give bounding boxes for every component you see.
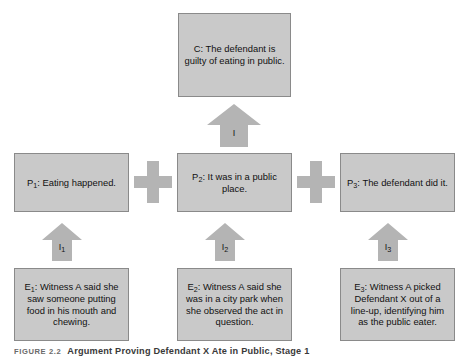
node-premise-p1[interactable]: P1: Eating happened. xyxy=(14,153,129,212)
node-evidence-e1-text: E1: Witness A said she saw someone putti… xyxy=(20,281,123,327)
inference-arrow-i1: I1 xyxy=(41,222,83,262)
inference-label-i: I xyxy=(206,128,262,138)
figure-caption: FIGURE 2.2Argument Proving Defendant X A… xyxy=(14,346,454,357)
node-evidence-e1[interactable]: E1: Witness A said she saw someone putti… xyxy=(14,268,129,341)
node-evidence-e3-text: E3: Witness A picked Defendant X out of … xyxy=(346,281,449,327)
node-evidence-e3[interactable]: E3: Witness A picked Defendant X out of … xyxy=(340,268,455,341)
node-premise-p2-text: P2: It was in a public place. xyxy=(183,171,286,194)
node-premise-p2[interactable]: P2: It was in a public place. xyxy=(177,153,292,212)
node-conclusion-c-text: C: The defendant is guilty of eating in … xyxy=(184,43,285,66)
plus-connector-icon-2 xyxy=(297,161,335,203)
node-conclusion-c[interactable]: C: The defendant is guilty of eating in … xyxy=(178,13,291,97)
node-evidence-e2-text: E2: Witness A said she was in a city par… xyxy=(183,281,286,327)
inference-label-i1: I1 xyxy=(41,242,83,252)
node-premise-p3-text: P3: The defendant did it. xyxy=(347,177,448,189)
node-evidence-e2[interactable]: E2: Witness A said she was in a city par… xyxy=(177,268,292,341)
inference-arrow-i2: I2 xyxy=(204,222,246,262)
plus-connector-icon-1 xyxy=(134,161,172,203)
figure-number: FIGURE 2.2 xyxy=(14,347,61,356)
argument-diagram-canvas: C: The defendant is guilty of eating in … xyxy=(0,0,468,357)
inference-arrow-i: I xyxy=(206,103,262,148)
node-premise-p3[interactable]: P3: The defendant did it. xyxy=(340,153,455,212)
node-premise-p1-text: P1: Eating happened. xyxy=(27,177,116,189)
inference-label-i3: I3 xyxy=(367,242,409,252)
figure-caption-text: Argument Proving Defendant X Ate in Publ… xyxy=(67,346,309,356)
inference-label-i2: I2 xyxy=(204,242,246,252)
inference-arrow-i3: I3 xyxy=(367,222,409,262)
